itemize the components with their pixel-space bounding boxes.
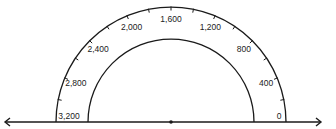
scale-label: 800 [237,44,251,54]
scale-labels: 04008001,2001,6002,0002,4002,8003,200 [58,14,281,121]
scale-label: 0 [277,111,282,121]
inner-arc [88,39,254,122]
center-point [169,120,173,124]
scale-label: 3,200 [58,111,80,121]
tick-mark [89,40,92,43]
scale-label: 2,800 [65,78,87,88]
scale-label: 1,600 [160,14,182,24]
scale-label: 1,200 [200,22,222,32]
outer-arc [56,7,286,122]
tick-mark [250,40,253,43]
scale-label: 400 [259,78,273,88]
dial-diagram: 04008001,2001,6002,0002,4002,8003,200 [0,0,336,129]
scale-label: 2,400 [88,44,110,54]
scale-label: 2,000 [121,22,143,32]
